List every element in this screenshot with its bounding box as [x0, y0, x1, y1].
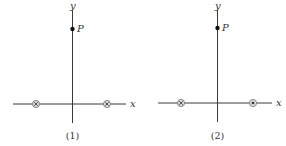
point-p-label: P: [221, 22, 229, 33]
panel-1: y x P (1): [13, 0, 136, 141]
wire-into-page-icon: [32, 100, 39, 107]
x-axis-label: x: [130, 98, 136, 109]
x-axis-label: x: [276, 97, 282, 108]
panel-caption: (1): [66, 130, 79, 141]
wire-into-page-icon: [103, 100, 110, 107]
y-axis-label: y: [69, 0, 76, 11]
point-p-dot: [70, 27, 74, 31]
panel-caption: (2): [211, 130, 224, 141]
wire-out-of-page-icon: [249, 99, 256, 106]
point-p-dot: [215, 26, 219, 30]
wire-into-page-icon: [177, 99, 184, 106]
y-axis-label: y: [214, 0, 221, 11]
point-p-label: P: [76, 23, 84, 34]
panel-2: y x P (2): [158, 0, 282, 141]
diagram-canvas: y x P (1) y x P: [0, 0, 286, 146]
